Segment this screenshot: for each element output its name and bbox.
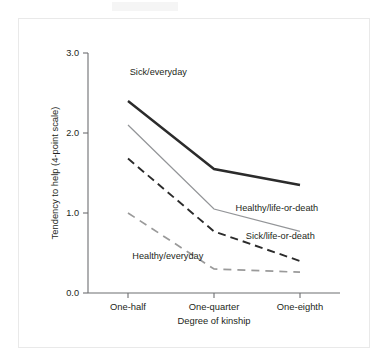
chart-panel [18,18,370,348]
figure-container: 0.01.02.03.0 One-halfOne-quarterOne-eigh… [0,0,390,363]
scan-artifact [112,2,178,11]
